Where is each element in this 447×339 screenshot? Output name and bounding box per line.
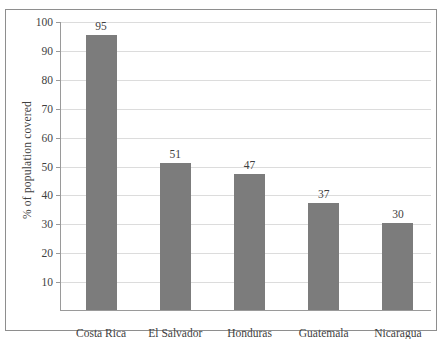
bar-chart-figure: % of population covered 1009080706050403… (5, 9, 437, 331)
y-axis-tick (56, 22, 61, 23)
y-axis-tick (56, 195, 61, 196)
y-axis-tick (56, 51, 61, 52)
bar: 30 (382, 223, 413, 310)
y-axis-tick-label: 90 (42, 45, 54, 57)
y-axis-tick-label: 70 (42, 103, 54, 115)
y-axis-tick-label: 40 (42, 189, 54, 201)
y-axis-tick-label: 20 (42, 247, 54, 259)
y-axis-tick (56, 167, 61, 168)
bar: 95 (86, 35, 117, 310)
y-axis-tick (56, 253, 61, 254)
scan-noise-strip (0, 0, 447, 8)
y-axis-tick (56, 224, 61, 225)
x-axis-category-label: Guatemala (299, 327, 349, 339)
bar-value-label: 37 (318, 188, 330, 200)
x-axis-line (60, 310, 431, 311)
bar-value-label: 30 (392, 208, 404, 220)
gridline (61, 22, 431, 23)
y-axis-title: % of population covered (12, 10, 42, 310)
y-axis-tick (56, 282, 61, 283)
y-axis-tick-label: 60 (42, 132, 54, 144)
bar-value-label: 95 (95, 20, 107, 32)
y-axis-tick-label: 10 (42, 276, 54, 288)
y-axis-tick-label: 50 (42, 161, 54, 173)
bar: 37 (308, 203, 339, 310)
x-axis-category-label: Nicaragua (374, 327, 421, 339)
plot-area: 100908070605040302010 9551473730 Costa R… (60, 22, 431, 311)
x-axis-category-label: El Salvador (148, 327, 202, 339)
x-axis-category-label: Costa Rica (76, 327, 126, 339)
y-axis-title-text: % of population covered (21, 101, 33, 219)
bar: 47 (234, 174, 265, 310)
y-axis-tick-label: 80 (42, 74, 54, 86)
x-axis-category-label: Honduras (227, 327, 272, 339)
bar-value-label: 47 (244, 159, 256, 171)
y-axis-tick (56, 80, 61, 81)
y-axis-tick (56, 138, 61, 139)
bar: 51 (160, 163, 191, 310)
y-axis-tick-label: 30 (42, 218, 54, 230)
y-axis-tick-label: 100 (36, 16, 53, 28)
y-axis-tick (56, 109, 61, 110)
bar-value-label: 51 (170, 148, 182, 160)
